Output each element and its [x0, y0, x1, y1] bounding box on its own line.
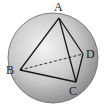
vertex-label-c: C: [69, 84, 77, 98]
vertex-label-d: D: [86, 47, 95, 61]
vertex-label-a: A: [54, 0, 63, 14]
vertex-label-b: B: [6, 63, 14, 77]
tetrahedron-in-sphere-diagram: A B C D: [0, 0, 105, 107]
